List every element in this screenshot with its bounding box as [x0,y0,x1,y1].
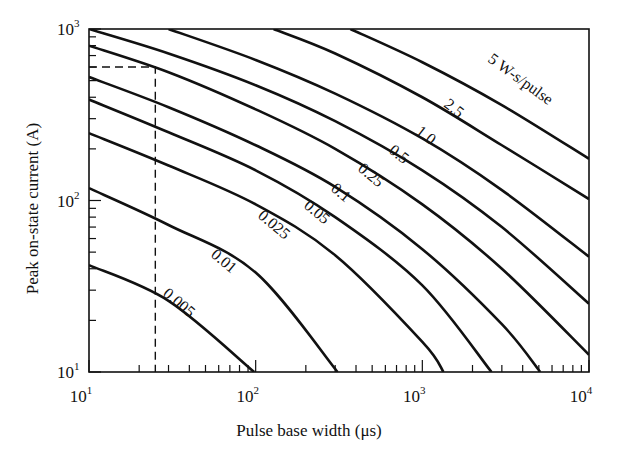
curve-label-0_1: 0.1 [328,179,354,205]
y-tick-label: 103 [57,17,80,39]
x-axis-title: Pulse base width (μs) [236,421,382,440]
x-tick-label: 101 [70,384,93,406]
curve-0_005 [89,265,254,372]
curve-label-0_025: 0.025 [255,206,294,242]
x-tick-label: 104 [570,384,593,406]
x-tick-label: 102 [236,384,259,406]
curve-label-0_01: 0.01 [208,245,240,276]
curve-label-0_005: 0.005 [160,284,199,320]
curve-label-2_5: 2.5 [441,95,467,121]
curve-label-0_05: 0.05 [301,196,333,227]
curve-0_025 [89,133,444,372]
curve-label-1_0: 1.0 [413,122,439,148]
chart: 101102103104101102103Pulse base width (μ… [0,0,620,456]
plot-area: 101102103104101102103Pulse base width (μ… [0,0,620,456]
curve-label-5: 5 W-s/pulse [485,50,557,109]
curve-0_1 [89,77,540,372]
y-axis-title: Peak on-state current (A) [23,123,42,294]
curve-1_0 [169,29,589,257]
x-tick-label: 103 [403,384,426,406]
y-tick-label: 101 [57,360,80,382]
y-tick-label: 102 [57,189,80,211]
